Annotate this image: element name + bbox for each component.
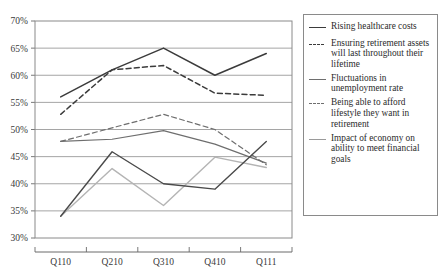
- legend-dashed-line-swatch-icon: [309, 39, 326, 51]
- svg-text:50%: 50%: [11, 125, 29, 135]
- chart-plot-container: 70%65%60%55%50%45%40%35%30%Q110Q210Q310Q…: [0, 0, 300, 271]
- legend-item-label: Rising healthcare costs: [331, 21, 417, 32]
- legend-line-swatch-icon: [309, 74, 326, 86]
- svg-text:65%: 65%: [11, 44, 29, 54]
- svg-text:30%: 30%: [11, 233, 29, 243]
- svg-text:70%: 70%: [11, 16, 29, 26]
- legend-dashed-line-swatch-icon: [309, 98, 326, 110]
- svg-text:Q110: Q110: [50, 257, 71, 267]
- chart-screenshot: 70%65%60%55%50%45%40%35%30%Q110Q210Q310Q…: [0, 0, 444, 271]
- legend-item[interactable]: Impact of economy on ability to meet fin…: [309, 133, 432, 165]
- legend-item[interactable]: Ensuring retirement assets will last thr…: [309, 38, 432, 70]
- legend-line-swatch-icon: [309, 22, 326, 34]
- legend-item[interactable]: Fluctuations in unemployment rate: [309, 73, 432, 94]
- svg-text:Q410: Q410: [204, 257, 225, 267]
- svg-text:Q111: Q111: [256, 257, 277, 267]
- svg-text:55%: 55%: [11, 98, 29, 108]
- svg-text:Q310: Q310: [153, 257, 174, 267]
- svg-text:60%: 60%: [11, 71, 29, 81]
- legend-line-swatch-icon: [309, 134, 326, 146]
- svg-text:35%: 35%: [11, 206, 29, 216]
- legend-item-label: Fluctuations in unemployment rate: [331, 73, 432, 94]
- legend-item[interactable]: Rising healthcare costs: [309, 21, 432, 34]
- svg-text:45%: 45%: [11, 152, 29, 162]
- legend-item-label: Being able to afford lifestyle they want…: [331, 97, 432, 129]
- legend-item-label: Ensuring retirement assets will last thr…: [331, 38, 432, 70]
- line-chart-svg: 70%65%60%55%50%45%40%35%30%Q110Q210Q310Q…: [0, 0, 300, 271]
- svg-text:40%: 40%: [11, 179, 29, 189]
- legend-item[interactable]: Being able to afford lifestyle they want…: [309, 97, 432, 129]
- svg-text:Q210: Q210: [102, 257, 123, 267]
- chart-legend: Rising healthcare costs Ensuring retirem…: [303, 14, 438, 216]
- legend-item-label: Impact of economy on ability to meet fin…: [331, 133, 432, 165]
